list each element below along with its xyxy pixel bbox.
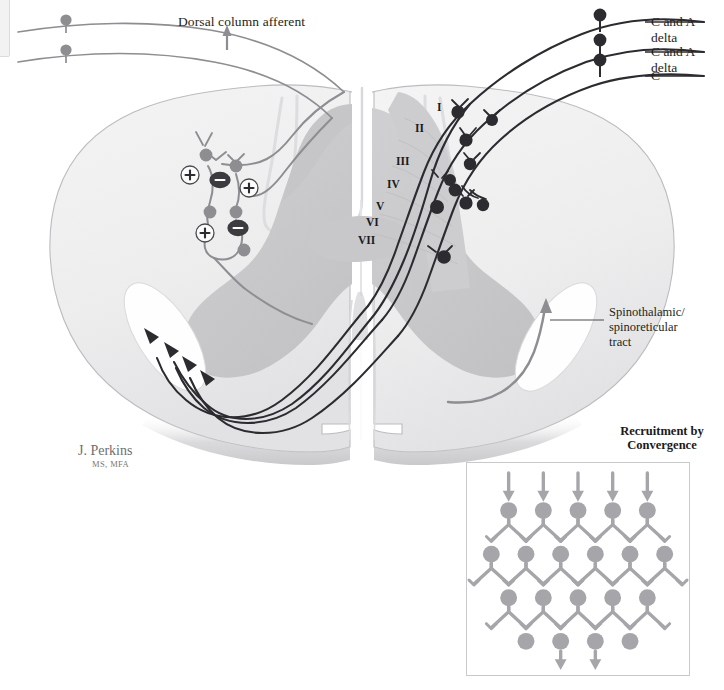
- network-neuron-soma: [604, 502, 621, 519]
- input-arrow: [537, 473, 549, 502]
- network-neuron-soma: [500, 502, 517, 519]
- network-neuron-soma: [622, 546, 639, 563]
- network-neuron-soma: [483, 546, 500, 563]
- convergence-network-diagram: [467, 463, 689, 675]
- artist-credit-name: J. Perkins: [78, 443, 132, 459]
- recruitment-by-convergence-inset: [466, 462, 690, 676]
- network-neuron-soma: [587, 546, 604, 563]
- network-neuron-soma: [622, 633, 639, 650]
- inset-title: Recruitment by Convergence: [602, 424, 722, 452]
- network-neuron-soma: [570, 589, 587, 606]
- input-arrow: [607, 473, 619, 502]
- network-neuron-soma: [552, 546, 569, 563]
- inhibitory-minus-icon: [210, 173, 230, 188]
- excitatory-plus-icon: [181, 166, 199, 184]
- inhibitory-minus-icon: [228, 221, 248, 236]
- inset-title-line2: Convergence: [602, 438, 722, 452]
- network-neuron-soma: [656, 546, 673, 563]
- network-neuron-soma: [518, 633, 535, 650]
- network-neuron-soma: [587, 633, 604, 650]
- input-arrow: [572, 473, 584, 502]
- network-neuron-soma: [604, 589, 621, 606]
- output-arrow: [555, 651, 567, 670]
- excitatory-plus-icon: [240, 179, 258, 197]
- network-neuron-soma: [639, 589, 656, 606]
- excitatory-plus-icon: [196, 224, 214, 242]
- figure-canvas: Dorsal column afferent C and A delta C a…: [0, 0, 724, 690]
- network-neuron-soma: [552, 633, 569, 650]
- inset-title-line1: Recruitment by: [602, 424, 722, 438]
- network-neuron-soma: [639, 502, 656, 519]
- network-neuron-soma: [500, 589, 517, 606]
- network-neuron-soma: [535, 502, 552, 519]
- artist-credit-credentials: MS, MFA: [92, 459, 129, 469]
- input-arrow: [503, 473, 515, 502]
- network-neuron-soma: [535, 589, 552, 606]
- output-arrow: [589, 651, 601, 670]
- input-arrow: [641, 473, 653, 502]
- network-neuron-soma: [518, 546, 535, 563]
- network-neuron-soma: [570, 502, 587, 519]
